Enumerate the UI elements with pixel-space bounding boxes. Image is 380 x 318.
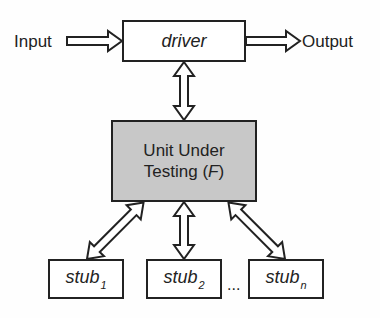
ellipsis: ... bbox=[227, 276, 240, 294]
uut-label-line2: Testing (F) bbox=[144, 161, 224, 182]
stub-1-box: stub1 bbox=[48, 259, 124, 299]
input-arrow bbox=[67, 31, 122, 51]
unit-under-testing-box: Unit Under Testing (F) bbox=[111, 120, 257, 202]
driver-box: driver bbox=[122, 20, 246, 62]
stub-1-base: stub bbox=[65, 267, 99, 287]
driver-uut-arrow bbox=[174, 62, 194, 120]
stub-n-base: stub bbox=[265, 267, 299, 287]
uut-label-line1: Unit Under bbox=[143, 140, 224, 161]
diagram-canvas: Input Output driver Unit Under Testing (… bbox=[0, 0, 380, 318]
uut-stubn-arrow bbox=[221, 195, 292, 266]
uut-line2-prefix: Testing ( bbox=[144, 162, 208, 181]
stub-n-subscript: n bbox=[300, 279, 306, 291]
uut-stub1-arrow bbox=[80, 195, 151, 266]
uut-stub2-arrow bbox=[174, 202, 194, 259]
stub-2-subscript: 2 bbox=[198, 279, 204, 291]
uut-function-var: F bbox=[208, 162, 218, 181]
stub-2-label: stub2 bbox=[163, 267, 204, 291]
stub-1-subscript: 1 bbox=[100, 279, 106, 291]
stub-n-box: stubn bbox=[248, 259, 324, 299]
output-label: Output bbox=[302, 33, 353, 50]
input-label: Input bbox=[14, 33, 52, 50]
stub-1-label: stub1 bbox=[65, 267, 106, 291]
driver-label: driver bbox=[161, 31, 206, 52]
stub-n-label: stubn bbox=[265, 267, 306, 291]
output-arrow bbox=[246, 31, 300, 51]
stub-2-base: stub bbox=[163, 267, 197, 287]
stub-2-box: stub2 bbox=[146, 259, 222, 299]
uut-line2-suffix: ) bbox=[218, 162, 224, 181]
